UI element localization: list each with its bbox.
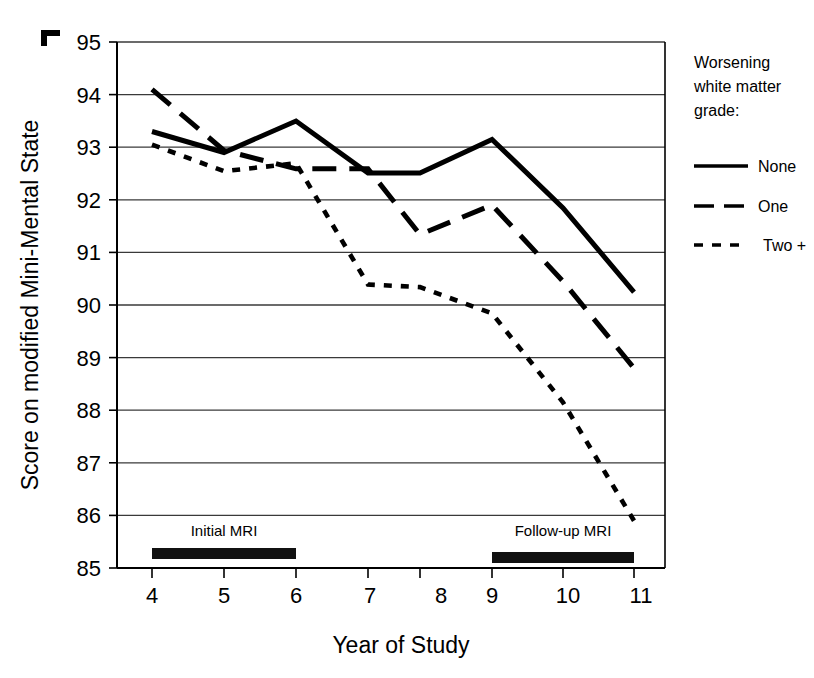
followup-mri-label: Follow-up MRI — [515, 522, 612, 539]
legend-label-one: One — [758, 198, 788, 215]
x-tick-label: 7 — [364, 583, 376, 608]
legend-title-line-3: grade: — [694, 102, 739, 119]
y-tick-label: 93 — [77, 135, 101, 160]
legend-label-two-plus: Two + — [763, 237, 806, 254]
y-tick-label: 92 — [77, 188, 101, 213]
followup-mri-bar — [492, 552, 634, 563]
x-tick-label: 10 — [556, 583, 580, 608]
legend-entry-none[interactable]: None — [694, 158, 796, 175]
y-axis-tick-labels: 95 94 93 92 91 90 89 88 87 86 85 — [77, 30, 101, 581]
y-axis-ticks — [109, 42, 117, 568]
x-tick-label: 9 — [486, 583, 498, 608]
y-tick-label: 88 — [77, 398, 101, 423]
x-axis-tick-labels: 4 5 6 7 8 9 10 11 — [146, 583, 653, 608]
legend-entry-two-plus[interactable]: Two + — [694, 237, 806, 254]
chart-canvas: 95 94 93 92 91 90 89 88 87 86 85 4 5 — [0, 0, 814, 678]
chart-figure: 95 94 93 92 91 90 89 88 87 86 85 4 5 — [0, 0, 814, 678]
initial-mri-label: Initial MRI — [191, 522, 258, 539]
y-tick-label: 91 — [77, 240, 101, 265]
x-tick-label: 8 — [435, 583, 447, 608]
legend-entry-one[interactable]: One — [694, 198, 788, 215]
x-tick-label: 5 — [218, 583, 230, 608]
y-tick-label: 86 — [77, 503, 101, 528]
y-tick-label: 87 — [77, 451, 101, 476]
y-tick-label: 95 — [77, 30, 101, 55]
legend: Worsening white matter grade: None One T… — [693, 54, 806, 254]
legend-title-line-2: white matter — [693, 78, 782, 95]
y-tick-label: 85 — [77, 556, 101, 581]
scan-artifact-mark — [44, 33, 60, 46]
x-tick-label: 11 — [630, 583, 653, 608]
x-axis-title: Year of Study — [332, 632, 470, 658]
y-tick-label: 89 — [77, 346, 101, 371]
x-tick-label: 4 — [146, 583, 158, 608]
y-tick-label: 94 — [77, 83, 101, 108]
legend-label-none: None — [758, 158, 796, 175]
y-tick-label: 90 — [77, 293, 101, 318]
x-tick-label: 6 — [290, 583, 302, 608]
x-axis-ticks — [152, 568, 634, 578]
initial-mri-bar — [152, 548, 296, 559]
y-axis-title: Score on modified Mini-Mental State — [17, 120, 43, 491]
legend-title-line-1: Worsening — [694, 54, 770, 71]
